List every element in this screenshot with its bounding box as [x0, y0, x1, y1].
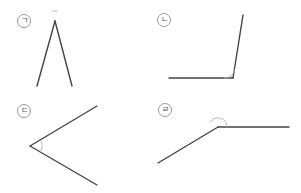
angle-d [158, 118, 289, 163]
angle-diagram: ㄱ ㄴ ㄷ ㄹ [0, 0, 301, 193]
label-badge-b: ㄴ [157, 13, 171, 27]
label-badge-a: ㄱ [17, 14, 31, 28]
angle-d-ray-2 [158, 127, 218, 163]
angle-a [37, 11, 72, 86]
label-badge-d: ㄹ [158, 103, 172, 117]
angle-c-ray-1 [30, 106, 97, 146]
label-badge-c: ㄷ [17, 104, 31, 118]
angle-a-ray-2 [55, 21, 72, 86]
angle-a-ray-1 [37, 21, 55, 86]
angle-b-ray-2 [233, 15, 243, 78]
angle-c-arc-mark [40, 140, 42, 152]
angle-c [30, 106, 97, 185]
angle-figure-canvas [0, 0, 301, 193]
angle-b [169, 15, 243, 78]
angle-d-arc-mark [210, 118, 227, 127]
